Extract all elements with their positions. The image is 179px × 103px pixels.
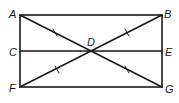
rectangle-diagonals-diagram: A B C D E F G — [0, 0, 179, 103]
label-g: G — [165, 83, 174, 95]
label-e: E — [165, 46, 173, 58]
label-d: D — [87, 36, 95, 48]
label-c: C — [9, 46, 17, 58]
label-b: B — [164, 8, 171, 20]
label-a: A — [8, 8, 16, 20]
label-f: F — [9, 82, 17, 94]
